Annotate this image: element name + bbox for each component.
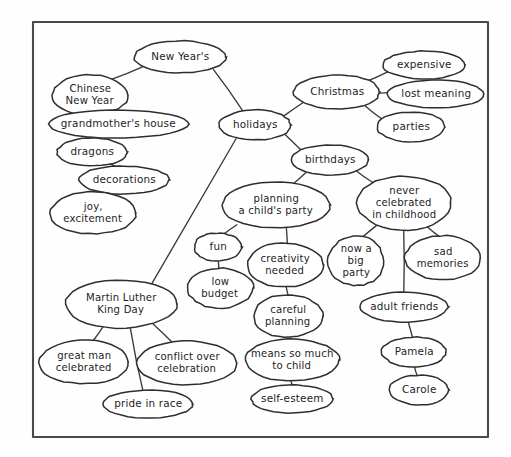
node-pamela[interactable]: Pamela (381, 337, 446, 367)
node-self_esteem[interactable]: self-esteem (251, 385, 333, 413)
edge-new_years-to-chinese_new_year (111, 66, 144, 79)
node-shape-new_years (134, 41, 226, 73)
node-shape-lost_meaning (387, 80, 484, 108)
edge-birthdays-to-planning_party (294, 172, 307, 184)
node-shape-low_budget (188, 268, 254, 309)
edge-new_years-to-holidays (214, 70, 243, 111)
node-shape-fun (195, 233, 243, 261)
node-joy_excitement[interactable]: joy,excitement (50, 191, 136, 234)
node-parties[interactable]: parties (377, 112, 444, 142)
node-shape-parties (377, 112, 444, 142)
edge-mlk_day-to-great_man (93, 327, 103, 340)
node-planning_party[interactable]: planninga child's party (222, 182, 331, 228)
edge-never_celebrated-to-adult_friends (404, 230, 405, 291)
node-shape-chinese_new_year (52, 74, 128, 115)
node-shape-great_man (39, 340, 129, 384)
node-shape-carole (389, 375, 449, 405)
nodes-layer: New Year'sChineseNew Yeargrandmother's h… (39, 41, 484, 418)
node-shape-christmas (293, 75, 380, 109)
node-shape-planning_party (222, 182, 331, 228)
node-shape-sad_memories (404, 235, 480, 279)
edge-birthdays-to-never_celebrated (355, 170, 373, 182)
node-shape-birthdays (291, 145, 368, 175)
node-shape-never_celebrated (356, 176, 451, 230)
node-new_years[interactable]: New Year's (134, 41, 226, 73)
node-shape-conflict_over (136, 341, 236, 385)
node-shape-decorations (79, 166, 170, 194)
node-adult_friends[interactable]: adult friends (360, 292, 449, 322)
edge-planning_party-to-fun (224, 225, 237, 234)
node-conflict_over[interactable]: conflict overcelebration (136, 341, 236, 385)
node-means_so_much[interactable]: means so muchto child (245, 339, 340, 381)
node-shape-now_big_party (327, 236, 383, 286)
edge-planning_party-to-creativity (286, 227, 287, 244)
node-shape-means_so_much (245, 339, 340, 381)
node-chinese_new_year[interactable]: ChineseNew Year (52, 74, 128, 115)
edge-pamela-to-carole (414, 366, 417, 375)
node-christmas[interactable]: Christmas (293, 75, 380, 109)
node-never_celebrated[interactable]: nevercelebratedin childhood (356, 176, 451, 230)
node-shape-self_esteem (251, 385, 333, 413)
node-shape-holidays (219, 110, 291, 140)
node-low_budget[interactable]: lowbudget (188, 268, 254, 309)
node-decorations[interactable]: decorations (79, 166, 170, 194)
node-lost_meaning[interactable]: lost meaning (387, 80, 484, 108)
node-sad_memories[interactable]: sadmemories (404, 235, 480, 279)
node-expensive[interactable]: expensive (383, 51, 465, 79)
node-carole[interactable]: Carole (389, 375, 449, 405)
node-shape-joy_excitement (50, 191, 136, 234)
node-mlk_day[interactable]: Martin LutherKing Day (66, 280, 178, 328)
concept-map-canvas: New Year'sChineseNew Yeargrandmother's h… (0, 0, 511, 457)
node-pride_in_race[interactable]: pride in race (103, 390, 193, 418)
node-shape-dragons (57, 138, 128, 166)
node-now_big_party[interactable]: now abigparty (327, 236, 383, 286)
node-birthdays[interactable]: birthdays (291, 145, 368, 175)
node-creativity[interactable]: creativityneeded (248, 243, 324, 287)
node-shape-adult_friends (360, 292, 449, 322)
node-fun[interactable]: fun (195, 233, 243, 261)
edge-never_celebrated-to-now_big_party (362, 225, 377, 237)
node-grandmothers[interactable]: grandmother's house (49, 110, 190, 138)
edge-holidays-to-christmas (285, 101, 305, 115)
edge-adult_friends-to-pamela (408, 322, 412, 338)
edge-holidays-to-birthdays (284, 133, 303, 151)
node-shape-creativity (248, 243, 324, 287)
edge-christmas-to-parties (365, 105, 382, 119)
edge-mlk_day-to-conflict_over (152, 323, 172, 342)
node-holidays[interactable]: holidays (219, 110, 291, 140)
node-careful_planning[interactable]: carefulplanning (254, 295, 323, 337)
node-shape-grandmothers (49, 110, 190, 138)
concept-map-svg: New Year'sChineseNew Yeargrandmother's h… (0, 0, 511, 457)
node-shape-pamela (381, 337, 446, 367)
node-shape-pride_in_race (103, 390, 193, 418)
edge-never_celebrated-to-sad_memories (427, 227, 439, 236)
node-shape-expensive (383, 51, 465, 79)
node-dragons[interactable]: dragons (57, 138, 128, 166)
node-shape-careful_planning (254, 295, 323, 337)
node-great_man[interactable]: great mancelebrated (39, 340, 129, 384)
node-shape-mlk_day (66, 280, 178, 328)
